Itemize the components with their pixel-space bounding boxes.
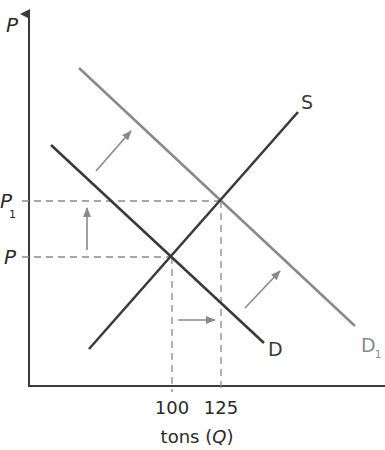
supply-demand-diagram: P P 1 P 100 125 tons (Q) S D D 1 bbox=[0, 0, 385, 450]
quantity-tick-125: 125 bbox=[204, 397, 238, 418]
demand-new-label: D bbox=[361, 334, 376, 356]
price-label-p1-subscript: 1 bbox=[9, 208, 16, 221]
supply-curve-s bbox=[89, 112, 298, 349]
x-axis-label: tons (Q) bbox=[161, 426, 234, 447]
demand-label: D bbox=[268, 338, 283, 360]
demand-new-label-subscript: 1 bbox=[375, 349, 381, 360]
shift-arrow-upper-left bbox=[96, 131, 131, 171]
y-axis-label: P bbox=[6, 13, 19, 37]
price-label-p: P bbox=[4, 245, 17, 269]
supply-label: S bbox=[301, 91, 313, 113]
quantity-tick-100: 100 bbox=[155, 397, 189, 418]
demand-curve-d bbox=[51, 145, 264, 343]
shift-arrow-lower-right bbox=[245, 271, 280, 308]
demand-curve-d1 bbox=[79, 68, 355, 326]
